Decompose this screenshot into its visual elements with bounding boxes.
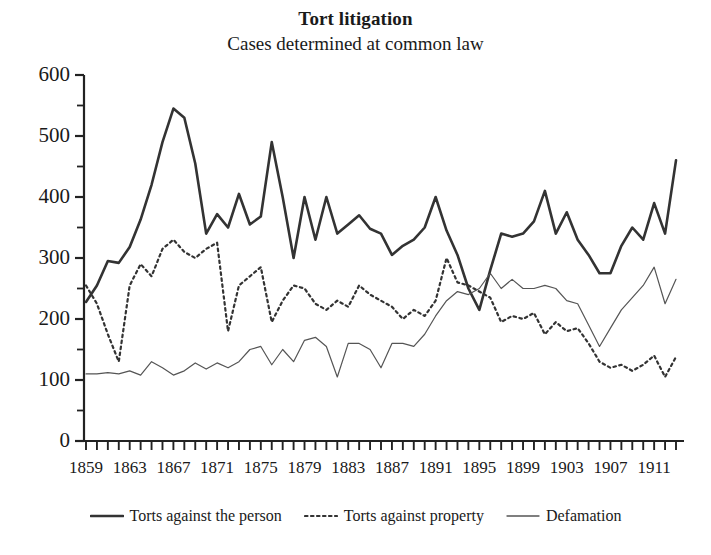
- y-tick-label: 100: [12, 369, 70, 390]
- legend-swatch-solid-thin-icon: [506, 511, 540, 521]
- y-tick-label: 300: [12, 247, 70, 268]
- y-tick-label: 500: [12, 125, 70, 146]
- chart-legend: Torts against the personTorts against pr…: [0, 508, 711, 524]
- y-tick-label: 400: [12, 186, 70, 207]
- series-line-1: [86, 240, 676, 377]
- chart-figure: Tort litigation Cases determined at comm…: [0, 0, 711, 555]
- legend-swatch-solid-thick-icon: [90, 511, 124, 521]
- y-tick-label: 200: [12, 308, 70, 329]
- legend-label: Torts against property: [344, 508, 484, 524]
- x-tick-label: 1911: [624, 459, 684, 476]
- legend-item[interactable]: Torts against property: [304, 508, 484, 524]
- legend-label: Defamation: [546, 508, 622, 524]
- legend-item[interactable]: Torts against the person: [90, 508, 282, 524]
- series-line-2: [86, 267, 676, 377]
- y-tick-label: 0: [12, 430, 70, 451]
- legend-swatch-dotted-icon: [304, 511, 338, 521]
- series-line-0: [86, 109, 676, 310]
- y-tick-label: 600: [12, 64, 70, 85]
- legend-label: Torts against the person: [130, 508, 282, 524]
- legend-item[interactable]: Defamation: [506, 508, 622, 524]
